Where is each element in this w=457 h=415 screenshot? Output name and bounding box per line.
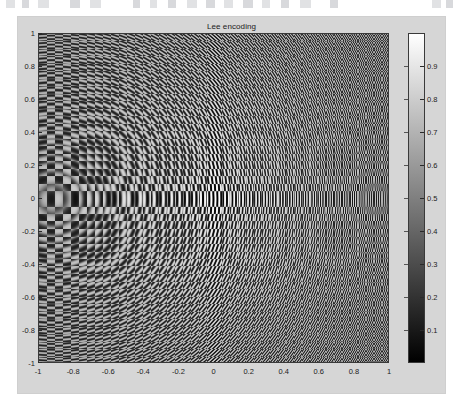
x-tick-label: 0.6 bbox=[314, 367, 324, 376]
colorbar-tick-label: 0.4 bbox=[427, 227, 437, 236]
colorbar-tick-mark bbox=[420, 66, 424, 67]
colorbar-tick-label: 0.1 bbox=[427, 326, 437, 335]
colorbar-tick-mark bbox=[420, 198, 424, 199]
colorbar-tick-mark bbox=[420, 132, 424, 133]
colorbar-tick-mark-inner bbox=[404, 99, 408, 100]
pan-icon[interactable] bbox=[150, 0, 157, 8]
y-tick-mark bbox=[38, 362, 42, 363]
y-tick-label: 0.6 bbox=[15, 95, 35, 104]
colorbar-tick-mark-inner bbox=[404, 165, 408, 166]
y-tick-label: -1 bbox=[15, 359, 35, 368]
zoom-out-icon[interactable] bbox=[133, 0, 140, 8]
x-tick-label: 0 bbox=[211, 367, 215, 376]
colorbar-tick-mark bbox=[420, 264, 424, 265]
y-tick-label: 1 bbox=[15, 29, 35, 38]
y-tick-label: 0.8 bbox=[15, 62, 35, 71]
x-tick-label: 1 bbox=[387, 367, 391, 376]
y-tick-mark bbox=[38, 231, 42, 232]
hologram-canvas bbox=[39, 34, 389, 363]
colorbar-tick-mark bbox=[420, 330, 424, 331]
y-tick-mark bbox=[38, 264, 42, 265]
legend-icon[interactable] bbox=[262, 0, 270, 8]
y-tick-mark bbox=[38, 66, 42, 67]
brush-icon[interactable] bbox=[206, 0, 215, 8]
y-tick-label: 0.2 bbox=[15, 161, 35, 170]
colorbar-tick-label: 0.9 bbox=[427, 62, 437, 71]
colorbar-tick-label: 0.6 bbox=[427, 161, 437, 170]
y-tick-label: -0.6 bbox=[15, 293, 35, 302]
colorbar-tick-mark bbox=[420, 99, 424, 100]
zoom-in-icon[interactable] bbox=[90, 0, 101, 8]
y-tick-mark bbox=[38, 33, 42, 34]
save-icon[interactable] bbox=[38, 0, 49, 8]
print-icon[interactable] bbox=[70, 0, 80, 8]
new-figure-icon[interactable] bbox=[6, 0, 15, 8]
open-icon[interactable] bbox=[22, 0, 29, 8]
x-tick-label: -0.6 bbox=[102, 367, 115, 376]
data-cursor-icon[interactable] bbox=[187, 0, 197, 8]
colorbar-ticks: 0.10.20.30.40.50.60.70.80.9 bbox=[408, 33, 450, 363]
colorbar-tick-label: 0.5 bbox=[427, 194, 437, 203]
colorbar-tick-mark-inner bbox=[404, 264, 408, 265]
x-axis-ticks: -1-0.8-0.6-0.4-0.200.20.40.60.81 bbox=[38, 365, 389, 379]
x-tick-label: 0.4 bbox=[278, 367, 288, 376]
y-tick-mark bbox=[38, 165, 42, 166]
colorbar-tick-mark-inner bbox=[404, 297, 408, 298]
colorbar-tick-label: 0.2 bbox=[427, 293, 437, 302]
x-tick-label: 0.8 bbox=[349, 367, 359, 376]
colorbar-tick-mark bbox=[420, 297, 424, 298]
y-tick-label: -0.8 bbox=[15, 326, 35, 335]
y-tick-mark bbox=[38, 198, 42, 199]
colorbar-tick-label: 0.3 bbox=[427, 260, 437, 269]
y-tick-label: 0.4 bbox=[15, 128, 35, 137]
toolbar-extra2-icon[interactable] bbox=[432, 0, 441, 8]
y-tick-label: -0.2 bbox=[15, 227, 35, 236]
link-icon[interactable] bbox=[224, 0, 233, 8]
colorbar-icon[interactable] bbox=[243, 0, 253, 8]
y-tick-mark bbox=[38, 330, 42, 331]
x-tick-label: -0.8 bbox=[67, 367, 80, 376]
y-axis-ticks: 10.80.60.40.20-0.2-0.4-0.6-0.8-1 bbox=[18, 33, 35, 363]
colorbar-tick-mark-inner bbox=[404, 132, 408, 133]
toolbar-extra-icon[interactable] bbox=[330, 0, 338, 8]
colorbar-tick-mark-inner bbox=[404, 231, 408, 232]
y-tick-mark bbox=[38, 99, 42, 100]
colorbar-tick-label: 0.7 bbox=[427, 128, 437, 137]
page-title: Lee encoding bbox=[18, 22, 445, 31]
colorbar-tick-mark bbox=[420, 165, 424, 166]
y-tick-mark bbox=[38, 132, 42, 133]
figure-panel: Lee encoding 10.80.60.40.20-0.2-0.4-0.6-… bbox=[18, 17, 445, 393]
x-tick-label: -0.2 bbox=[172, 367, 185, 376]
toolbar-extra3-icon[interactable] bbox=[446, 0, 453, 8]
figure-toolbar[interactable] bbox=[0, 0, 457, 13]
y-tick-label: 0 bbox=[15, 194, 35, 203]
y-tick-mark bbox=[38, 297, 42, 298]
colorbar-tick-mark-inner bbox=[404, 330, 408, 331]
colorbar-tick-mark-inner bbox=[404, 66, 408, 67]
y-tick-label: -0.4 bbox=[15, 260, 35, 269]
x-tick-label: -1 bbox=[35, 367, 42, 376]
x-tick-label: 0.2 bbox=[243, 367, 253, 376]
hide-plot-tools-icon[interactable] bbox=[281, 0, 289, 8]
colorbar-tick-mark-inner bbox=[404, 198, 408, 199]
rotate-icon[interactable] bbox=[168, 0, 176, 8]
colorbar-tick-label: 0.8 bbox=[427, 95, 437, 104]
dock-icon[interactable] bbox=[300, 0, 311, 8]
colorbar-tick-mark bbox=[420, 231, 424, 232]
screenshot-root: Lee encoding 10.80.60.40.20-0.2-0.4-0.6-… bbox=[0, 0, 457, 415]
x-tick-label: -0.4 bbox=[137, 367, 150, 376]
heatmap-axes[interactable] bbox=[38, 33, 389, 363]
